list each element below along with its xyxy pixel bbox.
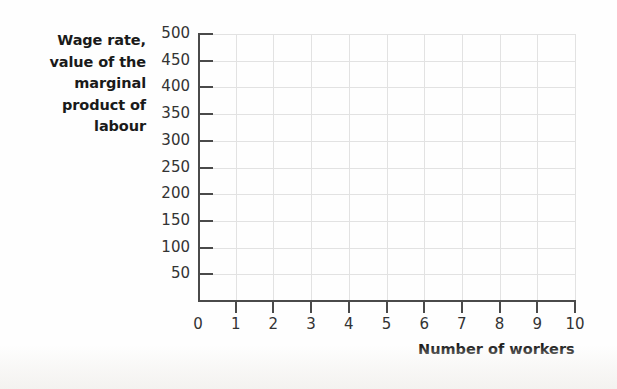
x-axis-tick-label: 8 [485,315,515,333]
y-axis-tick [200,60,213,62]
y-axis-tick-label: 400 [144,78,190,94]
y-axis-tick [200,247,213,249]
x-axis-tick [272,302,274,313]
y-axis-tick-label: 100 [144,239,190,255]
y-axis-title: Wage rate, value of the marginal product… [18,30,146,138]
y-axis-title-line-3: marginal [18,73,146,95]
y-axis-title-line-2: value of the [18,52,146,74]
y-axis-tick-label: 200 [144,185,190,201]
gridline-vertical [349,34,350,301]
x-axis-tick [235,302,237,313]
y-axis-title-line-4: product of [18,95,146,117]
y-axis-tick-label: 50 [144,265,190,281]
x-axis-tick-label: 0 [183,315,213,333]
x-axis-tick-label: 10 [560,315,590,333]
x-axis-tick [423,302,425,313]
x-axis-tick-label: 2 [258,315,288,333]
x-axis-tick [499,302,501,313]
x-axis-tick-label: 5 [372,315,402,333]
gridline-vertical [273,34,274,301]
x-axis-tick-label: 4 [334,315,364,333]
x-axis-tick [574,302,576,313]
y-axis-tick-label: 300 [144,132,190,148]
gridline-vertical [236,34,237,301]
x-axis-title: Number of workers [418,341,598,357]
y-axis-tick-label: 250 [144,159,190,175]
gridline-vertical [387,34,388,301]
gridline-vertical [500,34,501,301]
y-axis-tick [200,220,213,222]
y-axis-tick [200,113,213,115]
x-axis-tick-label: 1 [221,315,251,333]
gridline-vertical [537,34,538,301]
y-axis-tick [200,167,213,169]
x-axis-tick [348,302,350,313]
y-axis-tick [200,33,213,35]
y-axis-tick [200,193,213,195]
y-axis-tick [200,273,213,275]
gridline-vertical [424,34,425,301]
y-axis-tick-label: 150 [144,212,190,228]
x-axis-tick-label: 9 [522,315,552,333]
plot-area [198,34,575,301]
x-axis-tick-label: 6 [409,315,439,333]
x-axis-tick [536,302,538,313]
x-axis-tick-label: 3 [296,315,326,333]
y-axis-title-line-5: labour [18,116,146,138]
y-axis-tick [200,86,213,88]
x-axis-tick [310,302,312,313]
gridline-vertical [462,34,463,301]
y-axis-tick-label: 450 [144,52,190,68]
x-axis-tick [386,302,388,313]
gridline-vertical [575,34,576,301]
x-axis-tick-label: 7 [447,315,477,333]
y-axis-tick [200,140,213,142]
x-axis-tick [461,302,463,313]
y-axis-tick-label: 350 [144,105,190,121]
y-axis-title-line-1: Wage rate, [18,30,146,52]
chart-figure: Wage rate, value of the marginal product… [0,0,617,389]
y-axis-tick-label: 500 [144,25,190,41]
gridline-vertical [311,34,312,301]
